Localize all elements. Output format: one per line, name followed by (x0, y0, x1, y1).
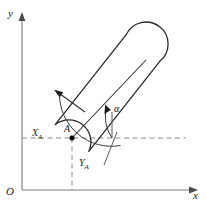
angle-arc-arrowhead (104, 105, 111, 114)
y-axis-arrowhead (19, 12, 26, 21)
lateral-direction-arrowhead (54, 90, 63, 98)
origin-label: O (6, 186, 14, 197)
x-coordinate-subscript: A (38, 133, 42, 141)
diagram-svg (0, 0, 207, 206)
point-a-marker (70, 136, 75, 141)
x-coordinate-label: XA (32, 128, 42, 141)
figure-canvas: y x O A XA YA α (0, 0, 207, 206)
angle-label: α (114, 104, 119, 114)
y-coordinate-subscript: A (85, 163, 89, 171)
y-coordinate-label: YA (79, 158, 89, 171)
x-axis-label: x (193, 190, 198, 201)
coordinate-axes (19, 12, 198, 193)
angle-leader-line (104, 132, 117, 165)
y-axis-label: y (8, 8, 13, 19)
point-a-label: A (64, 124, 70, 134)
